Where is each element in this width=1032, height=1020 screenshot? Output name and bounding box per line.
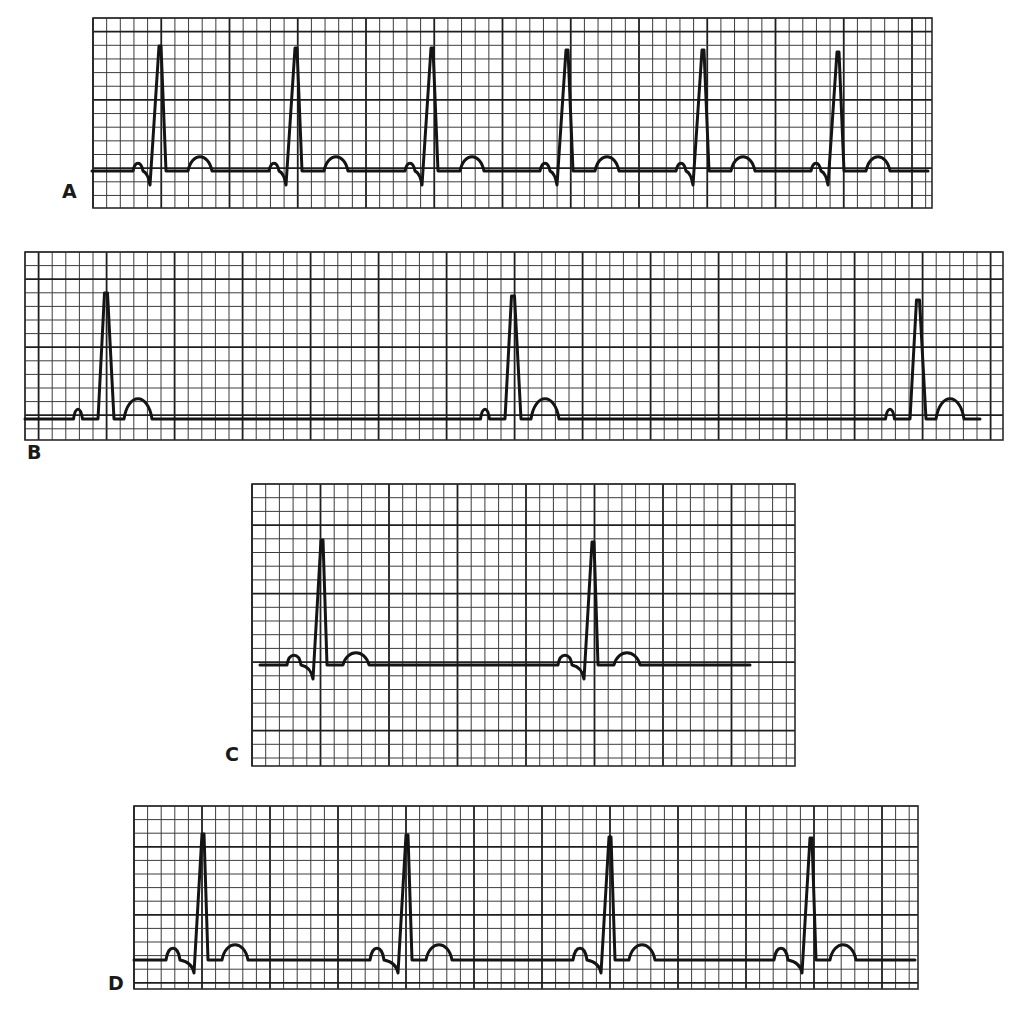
ecg-grid xyxy=(134,806,918,989)
strip-label-a: A xyxy=(62,182,77,201)
ecg-figure xyxy=(0,0,1032,1020)
ecg-trace xyxy=(134,834,915,973)
ecg-strip-b xyxy=(25,252,1003,440)
strip-label-c: C xyxy=(225,745,239,764)
strip-label-d: D xyxy=(108,974,124,993)
ecg-grid xyxy=(25,252,1003,440)
ecg-trace xyxy=(25,293,980,419)
ecg-strip-d xyxy=(134,806,918,989)
strip-label-b: B xyxy=(27,443,41,462)
ecg-strip-a xyxy=(92,18,932,208)
ecg-grid xyxy=(252,484,795,766)
ecg-strip-c xyxy=(252,484,795,766)
ecg-grid xyxy=(93,18,932,208)
